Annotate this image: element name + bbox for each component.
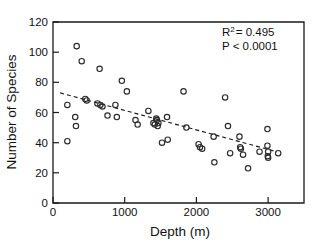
x-tick-label: 0 bbox=[50, 206, 56, 218]
y-tick-label: 60 bbox=[35, 107, 48, 119]
x-tick-label: 1000 bbox=[112, 206, 138, 218]
y-tick-label: 40 bbox=[35, 137, 48, 149]
chart-canvas: 0 20 40 60 80 100 120 0 1000 2000 3000 D… bbox=[0, 0, 322, 244]
scatter-plot-figure: 0 20 40 60 80 100 120 0 1000 2000 3000 D… bbox=[0, 0, 322, 244]
r-squared-annotation: R2= 0.495 bbox=[222, 25, 274, 38]
x-tick-label: 2000 bbox=[184, 206, 210, 218]
p-value-annotation: P < 0.0001 bbox=[222, 40, 278, 52]
y-tick-label: 20 bbox=[35, 167, 48, 179]
y-axis-title: Number of Species bbox=[4, 54, 19, 169]
x-tick-label: 3000 bbox=[255, 206, 281, 218]
y-tick-label: 100 bbox=[29, 46, 48, 58]
y-tick-label: 120 bbox=[29, 16, 48, 28]
y-tick-label: 80 bbox=[35, 76, 48, 88]
y-tick-label: 0 bbox=[42, 197, 48, 209]
x-axis-title: Depth (m) bbox=[150, 224, 210, 239]
